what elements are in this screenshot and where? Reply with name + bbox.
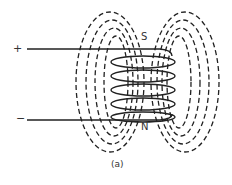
positive-lead-wire bbox=[27, 49, 172, 56]
figure-caption: (a) bbox=[111, 160, 124, 169]
solenoid-diagram bbox=[0, 0, 232, 185]
north-pole-label: N bbox=[141, 122, 148, 132]
positive-terminal-label: + bbox=[13, 43, 22, 54]
negative-lead-wire bbox=[27, 114, 172, 120]
south-pole-label: S bbox=[141, 32, 147, 42]
coil-turn bbox=[111, 70, 175, 82]
negative-terminal-label: − bbox=[16, 113, 25, 124]
